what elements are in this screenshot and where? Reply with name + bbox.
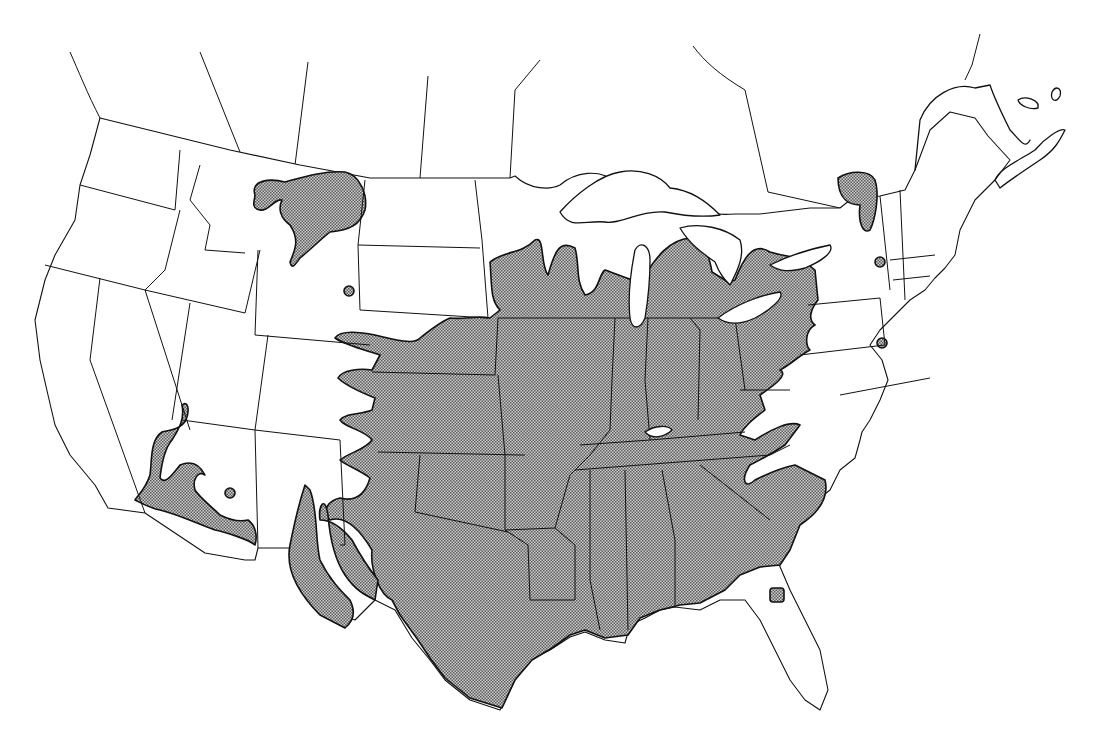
pei [1018,98,1038,109]
arizona-spot [225,488,235,498]
wyoming-spot [344,286,354,296]
map-canvas [0,0,1098,738]
delaware-spot [877,338,887,348]
range-map [0,0,1098,738]
cape-breton [1052,88,1061,100]
florida-spot [770,588,784,602]
new-york-spot [875,257,885,267]
